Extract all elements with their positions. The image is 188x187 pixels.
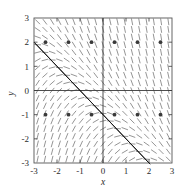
slope-tick xyxy=(137,126,142,131)
slope-tick xyxy=(109,19,111,26)
slope-tick xyxy=(87,148,90,154)
slope-tick xyxy=(168,64,169,71)
slope-tick xyxy=(146,64,148,71)
marked-point xyxy=(136,40,140,44)
slope-tick xyxy=(138,95,141,101)
slope-tick xyxy=(93,119,99,122)
slope-tick xyxy=(37,118,39,124)
marked-point xyxy=(113,40,117,44)
slope-tick xyxy=(158,157,164,161)
slope-tick xyxy=(50,27,54,32)
slope-tick xyxy=(131,80,133,86)
slope-tick xyxy=(117,26,119,33)
slope-tick xyxy=(116,57,118,63)
slope-tick xyxy=(117,19,118,26)
slope-tick xyxy=(71,74,77,76)
x-tick-label: 3 xyxy=(170,166,175,176)
slope-tick xyxy=(168,72,169,79)
slope-tick xyxy=(108,80,112,86)
slope-tick xyxy=(146,41,147,48)
slope-tick xyxy=(80,19,82,25)
slope-tick xyxy=(166,149,170,154)
slope-tick xyxy=(152,126,156,132)
slope-tick xyxy=(153,80,155,87)
slope-tick xyxy=(136,158,143,160)
marked-point xyxy=(67,113,71,117)
slope-tick xyxy=(58,118,61,124)
slope-tick xyxy=(122,143,129,145)
slope-tick xyxy=(64,58,70,62)
slope-tick xyxy=(56,59,62,61)
slope-tick xyxy=(63,66,69,68)
slope-tick xyxy=(167,110,169,116)
slope-tick xyxy=(160,49,161,56)
slope-tick xyxy=(73,133,76,139)
slope-tick xyxy=(146,26,147,33)
y-tick-label: 1 xyxy=(25,62,30,72)
slope-tick xyxy=(73,19,75,25)
chart-svg: -3-2-10123-3-2-10123xy xyxy=(0,0,188,187)
slope-tick xyxy=(131,41,133,48)
slope-tick xyxy=(131,95,134,101)
slope-tick xyxy=(124,57,126,63)
slope-tick xyxy=(65,26,68,32)
slope-tick xyxy=(124,18,125,25)
slope-tick xyxy=(168,18,169,25)
x-tick-label: 1 xyxy=(124,166,129,176)
slope-tick xyxy=(65,126,68,132)
slope-tick xyxy=(80,34,83,40)
slope-tick xyxy=(114,135,121,137)
slope-tick xyxy=(107,135,113,138)
slope-tick xyxy=(131,26,132,33)
slope-tick xyxy=(139,18,140,25)
slope-tick xyxy=(86,65,90,70)
slope-tick xyxy=(36,110,38,116)
slope-tick xyxy=(107,128,114,130)
slope-tick xyxy=(109,57,111,63)
slope-tick xyxy=(42,27,47,32)
slope-tick xyxy=(35,58,41,61)
x-tick-label: -3 xyxy=(30,166,38,176)
slope-tick xyxy=(43,103,46,109)
slope-tick xyxy=(79,118,83,123)
slope-tick xyxy=(167,133,170,139)
slope-tick xyxy=(80,26,82,32)
slope-tick xyxy=(86,81,92,85)
slope-tick xyxy=(87,42,90,48)
slope-tick xyxy=(166,157,171,162)
slope-tick xyxy=(58,19,61,25)
slope-tick xyxy=(65,118,68,124)
slope-tick xyxy=(95,34,97,40)
slope-tick xyxy=(153,34,154,41)
slope-tick xyxy=(109,72,112,78)
slope-tick xyxy=(50,35,55,40)
slope-tick xyxy=(87,133,91,139)
slope-tick xyxy=(115,149,120,154)
slope-tick xyxy=(65,133,68,139)
slope-tick xyxy=(36,103,39,109)
slope-tick xyxy=(129,127,135,131)
slope-tick xyxy=(167,118,169,124)
slope-tick xyxy=(58,110,61,116)
slope-tick xyxy=(153,103,155,109)
slope-tick xyxy=(65,19,68,25)
slope-tick xyxy=(108,156,112,162)
slope-tick xyxy=(58,148,60,155)
slope-tick xyxy=(58,126,61,132)
slope-tick xyxy=(152,118,155,124)
marked-point xyxy=(159,40,163,44)
slope-tick xyxy=(153,72,155,79)
slope-tick xyxy=(80,133,83,139)
slope-tick xyxy=(85,105,92,107)
slope-tick xyxy=(167,95,169,102)
slope-tick xyxy=(50,19,54,25)
slope-tick xyxy=(50,95,54,101)
slope-tick xyxy=(108,142,113,147)
slope-tick xyxy=(93,126,98,131)
y-tick-label: -1 xyxy=(22,110,30,120)
marked-point xyxy=(90,40,94,44)
marked-point xyxy=(44,113,48,117)
slope-tick xyxy=(56,81,62,84)
slope-tick xyxy=(143,150,149,152)
slope-tick xyxy=(57,96,61,101)
